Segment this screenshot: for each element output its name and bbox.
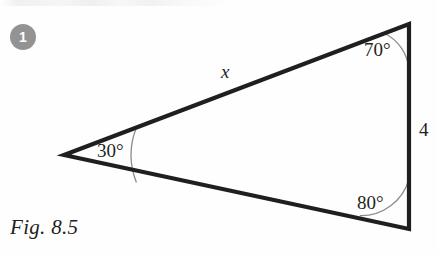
side-label-4: 4	[419, 119, 429, 141]
angle-arc-30	[131, 128, 136, 183]
angle-label-70: 70°	[364, 39, 391, 61]
side-label-x: x	[221, 61, 229, 83]
angle-label-80: 80°	[357, 192, 384, 214]
figure-container: 1 x 4 70° 80° 30° Fig. 8.5	[0, 0, 437, 255]
figure-caption: Fig. 8.5	[10, 215, 78, 240]
angle-label-30: 30°	[97, 140, 124, 162]
